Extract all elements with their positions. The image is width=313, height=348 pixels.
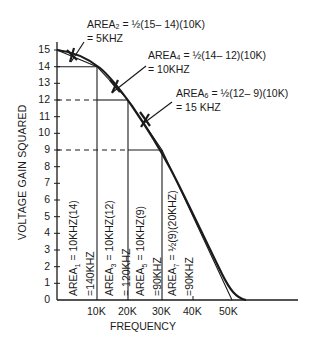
area-subscript: 2 (116, 23, 120, 30)
area-name: AREA (87, 18, 116, 30)
y-tick-label: 8 (30, 160, 50, 172)
area-subscript: 1 (74, 264, 81, 268)
y-tick-label: 10 (30, 126, 50, 138)
annotation-area7: AREA7 = ½(9)(20KHZ) =90KHZ (166, 190, 196, 296)
area-name: AREA (67, 267, 79, 296)
area-subscript: 5 (141, 264, 148, 268)
annotation-area1: AREA1 = 10KHZ(14) =140KHZ (67, 200, 97, 296)
y-tick-label: 11 (30, 110, 50, 122)
y-tick-label: 5 (30, 210, 50, 222)
y-tick-label: 13 (30, 76, 50, 88)
area-formula: = ½(9)(20KHZ) (166, 190, 178, 263)
area-formula: = 10KHZ(14) (67, 200, 79, 263)
y-tick-label: 0 (30, 293, 50, 305)
x-tick-label: 50K (219, 305, 238, 317)
annotation-area3: AREA3 = 10KHZ(12) = 120KHZ (103, 200, 133, 296)
area-subscript: 3 (110, 264, 117, 268)
x-tick-label: 30K (152, 305, 171, 317)
area-result: =90KHZ (151, 257, 163, 296)
area-result: =140KHZ (84, 251, 96, 296)
y-tick-label: 12 (30, 93, 50, 105)
y-tick-label: 14 (30, 60, 50, 72)
area-result: = 15 KHZ (176, 101, 221, 113)
area-name: AREA (166, 267, 178, 296)
y-tick-label: 3 (30, 243, 50, 255)
x-tick-label: 10K (87, 305, 106, 317)
area-subscript: 4 (177, 54, 181, 61)
area-formula: = 10KHZ(12) (103, 200, 115, 263)
annotation-area5: AREA5 = 10KHZ(9) =90KHZ (134, 206, 164, 296)
area-formula: = ½(14– 12)(10K) (181, 49, 267, 61)
x-tick-label: 20K (118, 305, 137, 317)
annotation-area6: AREA6 = ½(12– 9)(10K) = 15 KHZ (176, 87, 288, 114)
y-tick-label: 6 (30, 193, 50, 205)
area-result: = 5KHZ (87, 32, 123, 44)
area-result: =90KHZ (183, 257, 195, 296)
y-tick-label: 2 (30, 260, 50, 272)
annotation-area4: AREA4 = ½(14– 12)(10K) = 10KHZ (148, 49, 266, 76)
y-tick-label: 4 (30, 226, 50, 238)
x-axis-label: FREQUENCY (110, 320, 176, 332)
area-subscript: 6 (205, 92, 209, 99)
area-formula: = ½(15– 14)(10K) (120, 18, 206, 30)
area-subscript: 7 (173, 264, 180, 268)
y-tick-label: 7 (30, 176, 50, 188)
area-formula: = 10KHZ(9) (134, 206, 146, 263)
area-result: = 10KHZ (148, 63, 190, 75)
y-axis-label: VOLTAGE GAIN SQUARED (16, 105, 28, 240)
area-result: = 120KHZ (120, 248, 132, 296)
y-tick-label: 9 (30, 143, 50, 155)
annotation-area2: AREA2 = ½(15– 14)(10K) = 5KHZ (87, 18, 205, 45)
area-name: AREA (176, 87, 205, 99)
y-tick-label: 1 (30, 276, 50, 288)
area-name: AREA (148, 49, 177, 61)
area-formula: = ½(12– 9)(10K) (209, 87, 289, 99)
area-name: AREA (103, 267, 115, 296)
area-name: AREA (134, 267, 146, 296)
x-tick-label: 40K (183, 305, 202, 317)
y-tick-label: 15 (30, 43, 50, 55)
